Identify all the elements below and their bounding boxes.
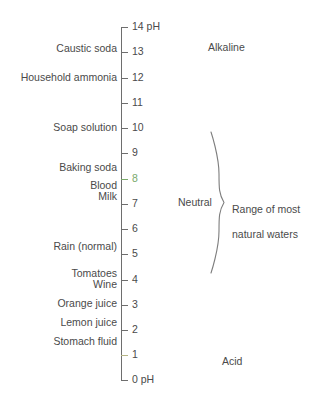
zone-label-alkaline: Alkaline xyxy=(208,42,245,53)
axis-label-2: 2 xyxy=(132,324,138,335)
zone-label-neutral: Neutral xyxy=(178,197,212,208)
axis-label-13: 13 xyxy=(132,46,144,57)
axis-label-7: 7 xyxy=(132,198,138,209)
substance-label-household-ammonia: Household ammonia xyxy=(21,72,117,83)
range-annotation: Range of most natural waters xyxy=(232,190,300,253)
axis-label-14: 14 pH xyxy=(132,21,160,32)
axis-tick-8 xyxy=(121,179,128,180)
zone-label-acid: Acid xyxy=(222,356,242,367)
axis-tick-1 xyxy=(121,355,128,356)
substance-label-milk: Milk xyxy=(98,191,117,202)
substance-label-stomach-fluid: Stomach fluid xyxy=(53,336,117,347)
axis-tick-9 xyxy=(121,153,128,154)
axis-label-4: 4 xyxy=(132,274,138,285)
axis-label-12: 12 xyxy=(132,72,144,83)
axis-tick-3 xyxy=(121,305,128,306)
substance-label-baking-soda: Baking soda xyxy=(59,162,117,173)
axis-tick-4 xyxy=(121,280,128,281)
axis-tick-0 xyxy=(121,380,128,381)
axis-label-3: 3 xyxy=(132,299,138,310)
axis-label-8: 8 xyxy=(132,173,138,184)
axis-label-0: 0 pH xyxy=(132,374,154,385)
substance-label-orange-juice: Orange juice xyxy=(57,298,117,309)
axis-tick-12 xyxy=(121,78,128,79)
substance-label-wine: Wine xyxy=(93,279,117,290)
axis-tick-13 xyxy=(121,52,128,53)
axis-tick-5 xyxy=(121,254,128,255)
axis-tick-7 xyxy=(121,204,128,205)
range-annotation-line2: natural waters xyxy=(232,228,300,241)
axis-tick-2 xyxy=(121,330,128,331)
substance-label-rain-normal: Rain (normal) xyxy=(53,241,117,252)
axis-tick-14 xyxy=(121,27,128,28)
axis-label-5: 5 xyxy=(132,248,138,259)
axis-label-1: 1 xyxy=(132,349,138,360)
substance-label-lemon-juice: Lemon juice xyxy=(60,317,117,328)
axis-tick-10 xyxy=(121,128,128,129)
axis-label-11: 11 xyxy=(132,97,143,108)
axis-label-6: 6 xyxy=(132,223,138,234)
axis-label-10: 10 xyxy=(132,122,144,133)
substance-label-soap-solution: Soap solution xyxy=(53,122,117,133)
ph-scale-diagram: 14 pH 13 12 11 10 9 8 7 6 5 4 3 2 1 0 pH… xyxy=(0,0,315,408)
axis-tick-6 xyxy=(121,229,128,230)
range-annotation-line1: Range of most xyxy=(232,203,300,216)
axis-label-9: 9 xyxy=(132,147,138,158)
substance-label-caustic-soda: Caustic soda xyxy=(56,43,117,54)
range-brace xyxy=(208,130,228,279)
axis-tick-11 xyxy=(121,103,128,104)
